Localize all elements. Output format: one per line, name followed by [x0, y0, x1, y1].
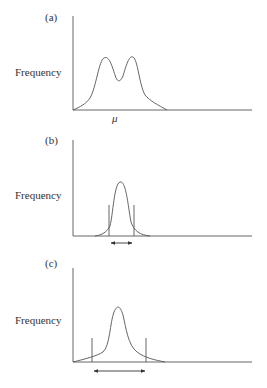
panel-a-bimodal-curve — [73, 57, 167, 110]
panel-c-plot — [73, 268, 252, 371]
panel-b-plot — [73, 140, 252, 243]
figure-canvas — [0, 0, 267, 388]
panel-a-plot — [73, 16, 252, 110]
panel-c-peaked-curve — [73, 307, 165, 362]
panel-b-narrow-curve — [95, 182, 150, 236]
